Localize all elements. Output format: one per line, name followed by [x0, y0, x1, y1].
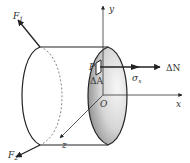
label-F1: F1 [12, 11, 23, 22]
label-area: ΔA [90, 76, 103, 86]
cylinder-left-arc [22, 47, 40, 145]
force-F1-arrow [18, 20, 40, 47]
label-sigma-x: σx [132, 73, 142, 84]
label-origin: O [100, 99, 108, 109]
label-y-axis: y [108, 4, 115, 14]
force-F2-arrow [16, 145, 40, 157]
label-delta-N: ΔN [166, 63, 180, 73]
cylinder-left-hidden-arc [40, 47, 62, 145]
label-F2: F2 [7, 150, 18, 161]
label-x-axis: x [176, 99, 181, 109]
label-z-axis: z [61, 140, 67, 150]
label-point-P: P [88, 62, 96, 72]
mechanics-diagram: F1 F2 y x z O P ΔA σx ΔN [0, 0, 190, 163]
